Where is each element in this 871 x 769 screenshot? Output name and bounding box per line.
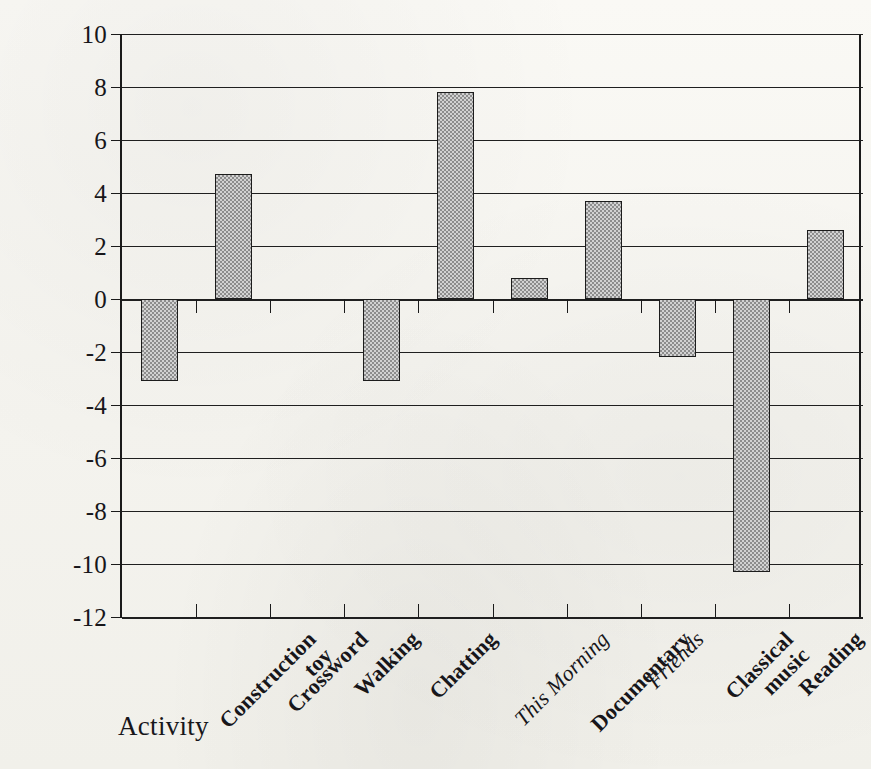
x-axis-category-label: Chatting bbox=[425, 627, 501, 703]
x-axis-category-label: Classicalmusic bbox=[721, 627, 814, 720]
category-label-line1: Chatting bbox=[424, 626, 502, 704]
bar-chart-figure: 1086420-2-4-6-8-10-12 Change in IQ Score… bbox=[0, 0, 871, 769]
x-axis-category-labels-group: ConstructiontoyCrosswordWalkingChattingT… bbox=[0, 0, 871, 769]
